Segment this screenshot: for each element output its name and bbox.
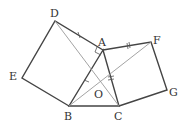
label-b: B — [64, 110, 72, 123]
label-e: E — [9, 70, 17, 83]
tick-ac-2 — [108, 79, 114, 80]
segment-dc — [55, 21, 119, 106]
label-o: O — [94, 88, 103, 101]
label-a: A — [97, 36, 107, 49]
square-abed — [22, 21, 103, 106]
label-f: F — [153, 34, 161, 47]
square-acgf — [103, 42, 167, 106]
label-d: D — [50, 7, 59, 20]
segment-bf — [69, 42, 151, 106]
label-g: G — [169, 86, 178, 99]
geometry-diagram: A B C D E F G O — [0, 0, 184, 138]
tick-af-1 — [127, 43, 128, 49]
tick-ac-1 — [108, 76, 114, 77]
label-c: C — [114, 110, 122, 123]
tick-af-2 — [129, 42, 130, 48]
